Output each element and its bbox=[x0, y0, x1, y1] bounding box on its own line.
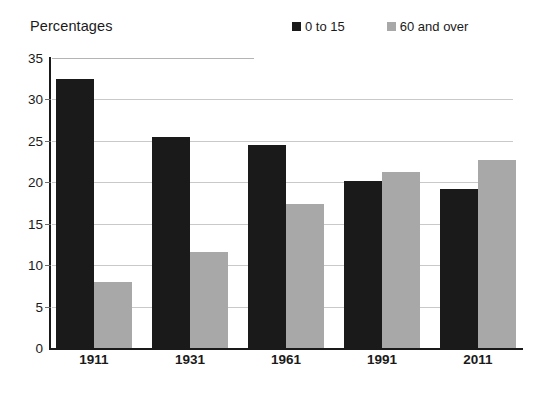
y-axis-caption: Percentages bbox=[30, 18, 113, 34]
y-axis-tick-mark bbox=[45, 141, 51, 142]
x-axis-tick-label: 1911 bbox=[46, 352, 142, 367]
bar bbox=[56, 79, 94, 348]
bar bbox=[248, 145, 286, 348]
bar bbox=[286, 204, 324, 348]
y-axis-line bbox=[49, 57, 51, 348]
bar-group bbox=[440, 58, 516, 348]
x-axis-tick-label: 1961 bbox=[238, 352, 334, 367]
bar bbox=[382, 172, 420, 348]
bar-group bbox=[248, 58, 324, 348]
x-axis-tick-label: 1991 bbox=[334, 352, 430, 367]
bar bbox=[344, 181, 382, 348]
bar-group bbox=[344, 58, 420, 348]
bar bbox=[94, 282, 132, 348]
legend-entry-0-to-15: 0 to 15 bbox=[292, 20, 345, 33]
legend-swatch-icon-0-to-15 bbox=[292, 22, 301, 31]
y-axis-tick-mark bbox=[45, 99, 51, 100]
y-axis-tick-mark bbox=[45, 265, 51, 266]
y-axis-tick-label: 25 bbox=[28, 133, 43, 148]
bar bbox=[190, 252, 228, 348]
legend-entry-60-and-over: 60 and over bbox=[387, 20, 469, 33]
y-axis-tick-label: 0 bbox=[35, 341, 43, 356]
bar bbox=[440, 189, 478, 348]
y-axis-tick-label: 15 bbox=[28, 216, 43, 231]
y-axis-tick-label: 35 bbox=[28, 51, 43, 66]
bar-group bbox=[56, 58, 132, 348]
legend-label-0-to-15: 0 to 15 bbox=[305, 20, 345, 33]
y-axis-tick-label: 10 bbox=[28, 258, 43, 273]
y-axis-tick-label: 5 bbox=[35, 299, 43, 314]
bars-layer bbox=[52, 58, 513, 348]
bar bbox=[152, 137, 190, 348]
plot-area: 05101520253035 bbox=[52, 58, 513, 348]
y-axis-tick-label: 30 bbox=[28, 92, 43, 107]
bar bbox=[478, 160, 516, 348]
y-axis-tick-mark bbox=[45, 224, 51, 225]
bar-chart: Percentages 0 to 15 60 and over 05101520… bbox=[0, 0, 534, 393]
x-axis-tick-label: 1931 bbox=[142, 352, 238, 367]
legend-swatch-icon-60-and-over bbox=[387, 22, 396, 31]
y-axis-tick-mark bbox=[45, 307, 51, 308]
x-axis-tick-label: 2011 bbox=[430, 352, 526, 367]
legend-label-60-and-over: 60 and over bbox=[400, 20, 469, 33]
bar-group bbox=[152, 58, 228, 348]
x-axis-line bbox=[49, 348, 523, 350]
y-axis-tick-label: 20 bbox=[28, 175, 43, 190]
y-axis-tick-mark bbox=[45, 182, 51, 183]
chart-legend: 0 to 15 60 and over bbox=[292, 20, 468, 33]
